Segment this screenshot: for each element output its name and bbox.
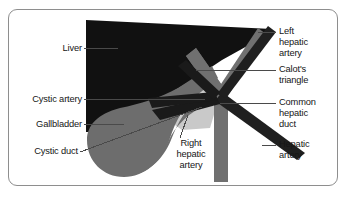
label-left-hepatic-artery: Left hepatic artery — [279, 26, 345, 60]
label-common-hepatic-duct: Common hepatic duct — [279, 97, 347, 131]
figure-root: Liver Cystic artery Gallbladder Cystic d… — [0, 0, 348, 197]
label-liver: Liver — [10, 43, 82, 54]
label-cystic-duct: Cystic duct — [4, 146, 78, 157]
label-right-hepatic-artery: Right hepatic artery — [160, 138, 222, 172]
label-gallbladder: Gallbladder — [4, 119, 82, 130]
label-cystic-artery: Cystic artery — [4, 94, 82, 105]
label-calots-triangle: Calot's triangle — [279, 64, 345, 86]
label-hepatic-artery: Hepatic artery — [279, 139, 345, 161]
